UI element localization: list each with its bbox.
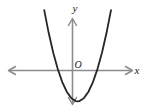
y-axis-group: y <box>69 2 78 105</box>
parabola-curve <box>44 10 111 101</box>
coordinate-plane-svg: x y O <box>0 0 148 112</box>
y-axis-label: y <box>72 2 78 14</box>
origin-label: O <box>74 59 81 70</box>
x-axis-label: x <box>134 64 140 76</box>
graph-figure: x y O <box>0 0 148 112</box>
